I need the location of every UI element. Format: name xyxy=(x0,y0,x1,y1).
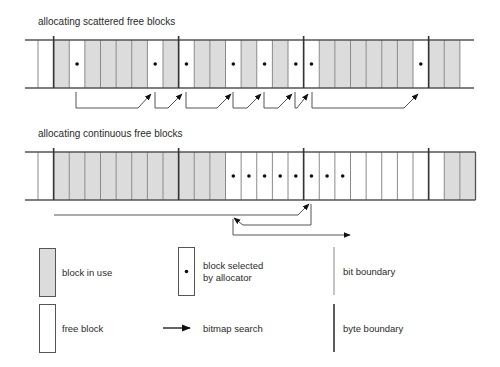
legend-label: block selected xyxy=(203,260,263,271)
bitmap-search-arrow-icon xyxy=(233,92,261,108)
block-in-use xyxy=(101,40,117,88)
selected-block-dot-icon xyxy=(278,174,282,178)
bitmap-search-arrow-icon xyxy=(155,92,182,108)
legend-item-free-box: free block xyxy=(40,305,104,353)
legend-label: free block xyxy=(62,323,103,334)
legend-label: by allocator xyxy=(203,272,252,283)
legend-item-arrow: bitmap search xyxy=(163,323,263,334)
block-in-use xyxy=(147,152,163,200)
block-in-use xyxy=(194,152,210,200)
selected-block-dot-icon xyxy=(310,62,314,66)
free-block xyxy=(382,152,398,200)
block-in-use xyxy=(366,40,382,88)
selected-block-dot-icon xyxy=(232,62,236,66)
block-in-use xyxy=(85,40,101,88)
legend-item-byte-line: byte boundary xyxy=(334,304,403,352)
block-in-use xyxy=(335,40,351,88)
free-block xyxy=(397,152,413,200)
rows-layer: allocating scattered free blocksallocati… xyxy=(25,16,476,235)
selected-block-dot-icon xyxy=(341,174,345,178)
block-in-use xyxy=(460,152,476,200)
block-in-use xyxy=(444,40,460,88)
legend-label: bit boundary xyxy=(343,266,396,277)
bitmap-row: allocating scattered free blocks xyxy=(25,16,474,108)
legend-label: byte boundary xyxy=(343,323,403,334)
block-in-use xyxy=(85,152,101,200)
free-block xyxy=(351,152,367,200)
block-in-use xyxy=(241,40,257,88)
block-in-use xyxy=(397,40,413,88)
selected-block-dot-icon xyxy=(310,174,314,178)
block-in-use xyxy=(179,152,195,200)
legend-label: bitmap search xyxy=(203,323,263,334)
block-in-use xyxy=(163,152,179,200)
block-in-use xyxy=(163,40,179,88)
bitmap-search-arrow-icon xyxy=(295,92,308,108)
legend: block in useblock selectedby allocatorbi… xyxy=(40,247,404,353)
selected-block-dot-icon xyxy=(294,174,298,178)
bitmap-search-arrow-icon xyxy=(233,219,350,235)
block-in-use xyxy=(210,152,226,200)
block-in-use xyxy=(272,40,288,88)
bitmap-search-arrow-icon xyxy=(264,92,292,108)
selected-block-dot-icon xyxy=(294,62,298,66)
block-in-use xyxy=(194,40,210,88)
block-in-use xyxy=(210,40,226,88)
block-in-use xyxy=(429,40,445,88)
bitmap-allocation-diagram: allocating scattered free blocksallocati… xyxy=(0,0,500,367)
free-box-swatch-icon xyxy=(40,305,56,353)
block-in-use xyxy=(69,152,85,200)
selected-block-dot-icon xyxy=(153,62,157,66)
free-block xyxy=(413,152,429,200)
used-box-swatch-icon xyxy=(40,249,56,297)
block-in-use xyxy=(319,40,335,88)
row-title: allocating scattered free blocks xyxy=(38,16,175,27)
selected-block-dot-icon xyxy=(232,174,236,178)
legend-item-used-box: block in use xyxy=(40,249,113,297)
selected-block-dot-icon xyxy=(263,174,267,178)
selected-block-dot-icon xyxy=(419,62,423,66)
block-in-use xyxy=(132,152,148,200)
selected-block-dot-icon xyxy=(263,62,267,66)
legend-label: block in use xyxy=(62,267,112,278)
block-in-use xyxy=(101,152,117,200)
selected-block-dot-icon xyxy=(247,174,251,178)
free-block xyxy=(38,152,54,200)
block-in-use xyxy=(54,40,70,88)
bitmap-search-arrow-icon xyxy=(54,204,309,215)
selected-block-dot-icon xyxy=(325,174,329,178)
block-in-use xyxy=(382,40,398,88)
bitmap-row: allocating continuous free blocks xyxy=(25,128,476,235)
legend-item-bit-line: bit boundary xyxy=(334,247,396,295)
row-title: allocating continuous free blocks xyxy=(38,128,183,139)
selected-block-dot-icon xyxy=(185,62,189,66)
block-in-use xyxy=(116,40,132,88)
block-in-use xyxy=(351,40,367,88)
block-in-use xyxy=(444,152,460,200)
free-block xyxy=(429,152,445,200)
block-in-use xyxy=(54,152,70,200)
block-in-use xyxy=(132,40,148,88)
selected-block-dot-icon xyxy=(75,62,79,66)
free-block xyxy=(366,152,382,200)
bitmap-search-arrow-icon xyxy=(186,92,231,108)
selected-dot-icon xyxy=(185,270,189,274)
free-block xyxy=(38,40,54,88)
bitmap-search-arrow-icon xyxy=(312,92,418,108)
legend-item-selected-box: block selectedby allocator xyxy=(179,248,264,296)
bitmap-search-arrow-icon xyxy=(76,92,151,108)
block-in-use xyxy=(116,152,132,200)
